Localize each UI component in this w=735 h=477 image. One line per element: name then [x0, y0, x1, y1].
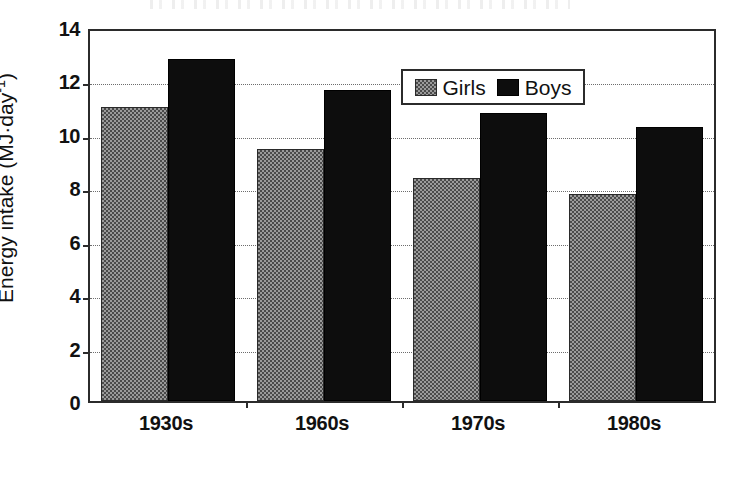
x-axis-tickmark — [402, 401, 404, 408]
y-axis-tick-label: 0 — [28, 392, 80, 415]
bar-boys-1930s — [168, 59, 235, 401]
y-axis-tick-label: 8 — [28, 178, 80, 201]
bar-girls-1970s — [413, 178, 480, 401]
y-axis-tickmark — [83, 352, 90, 354]
y-axis-tick-label: 12 — [28, 71, 80, 94]
y-axis-tick-label: 6 — [28, 231, 80, 254]
y-axis-tickmark — [83, 191, 90, 193]
y-axis-tick-label: 10 — [28, 124, 80, 147]
x-axis-tick-label-1970s: 1970s — [418, 412, 538, 435]
bar-girls-1980s — [569, 194, 636, 401]
bar-boys-1960s — [324, 90, 391, 401]
plot-area: GirlsBoys — [88, 29, 716, 403]
legend-entry-boys: Boys — [497, 77, 572, 98]
legend: GirlsBoys — [401, 69, 585, 105]
bar-chart-figure: Energy intake (MJ·day-1) 02468101214 Gir… — [0, 0, 735, 477]
legend-entry-girls: Girls — [415, 77, 486, 98]
x-axis-tickmark — [246, 401, 248, 408]
x-axis-tick-label-1980s: 1980s — [574, 412, 694, 435]
y-axis-title: Energy intake (MJ·day-1) — [0, 0, 18, 398]
bar-boys-1980s — [636, 127, 703, 401]
x-axis-tick-label-1960s: 1960s — [262, 412, 382, 435]
y-axis-tick-labels: 02468101214 — [28, 29, 80, 403]
scan-artifact — [150, 0, 570, 9]
y-axis-tick-label: 4 — [28, 285, 80, 308]
x-axis-tickmark — [558, 401, 560, 408]
y-axis-tickmark — [83, 298, 90, 300]
y-axis-tick-label: 2 — [28, 338, 80, 361]
bar-girls-1930s — [101, 107, 168, 401]
boys-solid-swatch — [497, 79, 519, 96]
x-axis-tick-label-1930s: 1930s — [106, 412, 226, 435]
x-axis-tick-labels: 1930s1960s1970s1980s — [88, 412, 716, 446]
y-axis-tickmark — [83, 138, 90, 140]
y-axis-tickmark — [83, 84, 90, 86]
y-axis-title-text: Energy intake (MJ·day — [0, 93, 17, 303]
y-axis-tickmark — [83, 245, 90, 247]
bar-boys-1970s — [480, 113, 547, 402]
y-axis-tick-label: 14 — [28, 18, 80, 41]
bar-girls-1960s — [257, 149, 324, 401]
y-axis-title-exponent: -1 — [0, 80, 8, 93]
girls-pattern-swatch — [415, 79, 437, 96]
legend-label-boys: Boys — [525, 77, 572, 98]
legend-label-girls: Girls — [443, 77, 486, 98]
y-axis-title-suffix: ) — [0, 73, 17, 80]
